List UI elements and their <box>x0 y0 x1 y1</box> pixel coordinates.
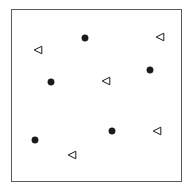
open-triangle-left-marker <box>153 127 162 136</box>
open-triangle-left-marker <box>34 46 43 55</box>
filled-circle-marker <box>82 35 89 42</box>
filled-circle-marker <box>109 128 116 135</box>
filled-circle-marker <box>147 67 154 74</box>
scatter-plot-figure <box>0 0 193 191</box>
filled-circle-marker <box>32 137 39 144</box>
plot-frame <box>11 9 182 182</box>
open-triangle-left-marker <box>156 33 165 42</box>
open-triangle-left-marker <box>102 77 111 86</box>
open-triangle-left-marker <box>68 151 77 160</box>
filled-circle-marker <box>48 79 55 86</box>
plot-area <box>12 10 181 181</box>
